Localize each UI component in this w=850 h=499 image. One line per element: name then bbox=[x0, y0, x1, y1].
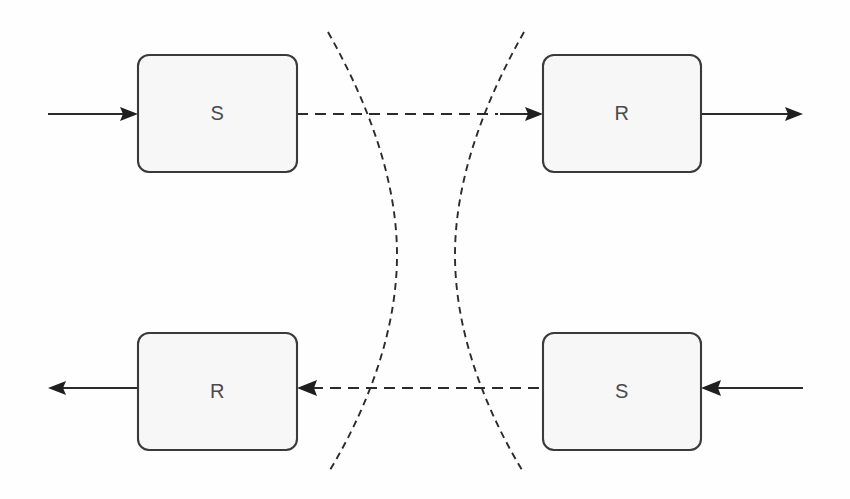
node-top-right-receiver[interactable]: R bbox=[543, 55, 701, 172]
node-label-bottom-left: R bbox=[210, 380, 225, 402]
node-label-top-left: S bbox=[211, 102, 225, 124]
node-bottom-left-receiver[interactable]: R bbox=[138, 333, 297, 450]
node-bottom-right-sender[interactable]: S bbox=[543, 333, 701, 450]
node-label-top-right: R bbox=[615, 102, 630, 124]
bottom-input-arrowhead bbox=[701, 380, 721, 396]
medium-boundary-group bbox=[328, 32, 524, 470]
node-label-bottom-right: S bbox=[615, 380, 629, 402]
bottom-receiver-arrowhead bbox=[297, 380, 317, 396]
diagram-canvas: S R R S bbox=[0, 0, 850, 499]
node-top-left-sender[interactable]: S bbox=[138, 55, 297, 172]
diagram-svg: S R R S bbox=[0, 0, 850, 499]
medium-boundary-right-curve bbox=[455, 32, 524, 470]
medium-boundary-left-curve bbox=[328, 32, 397, 470]
